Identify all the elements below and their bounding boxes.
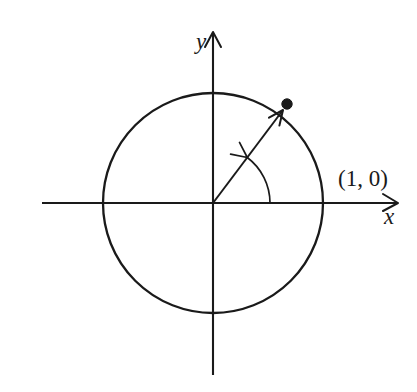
y-axis-label: y — [196, 30, 206, 53]
radius-vector-line — [213, 110, 283, 203]
figure-canvas — [0, 0, 417, 392]
angle-arc-arrowhead-icon — [231, 142, 248, 157]
x-intercept-coordinate-label: (1, 0) — [338, 167, 388, 190]
angle-arc-path — [247, 158, 270, 204]
x-axis-label: x — [384, 205, 394, 228]
unit-circle-figure: y x (1, 0) — [0, 0, 417, 392]
terminal-point-marker — [282, 99, 292, 109]
